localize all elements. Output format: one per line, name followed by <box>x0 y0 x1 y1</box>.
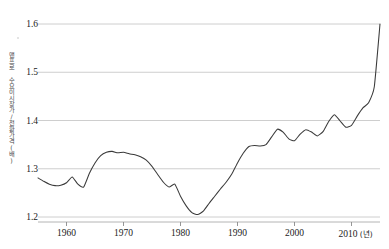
gridlines <box>38 24 380 222</box>
x-tick-label: 2000 <box>285 228 304 238</box>
plot-area <box>0 0 389 249</box>
x-axis-unit-label: (년) <box>357 230 372 239</box>
y-tick-label: 1.6 <box>16 19 38 29</box>
y-tick-label: 1.5 <box>16 67 38 77</box>
y-tick-label: 1.3 <box>16 164 38 174</box>
x-tick-label: 1980 <box>171 228 190 238</box>
y-tick-label: 1.2 <box>16 212 38 222</box>
x-tick-label: 2010 (년) <box>338 228 372 239</box>
y-tick-label: 1.4 <box>16 116 38 126</box>
x-tick-label: 1970 <box>114 228 133 238</box>
x-axis-tick-marks <box>67 222 352 226</box>
scan-artifact-dot <box>17 37 19 39</box>
x-tick-label: 1960 <box>57 228 76 238</box>
line-chart: 맨프로 수요이시장가/전환가격(배) 1.21.31.41.51.6 19601… <box>0 0 389 249</box>
y-axis-title: 맨프로 수요이시장가/전환가격(배) <box>1 52 15 182</box>
data-series-line <box>38 24 380 215</box>
x-tick-label: 1990 <box>228 228 247 238</box>
